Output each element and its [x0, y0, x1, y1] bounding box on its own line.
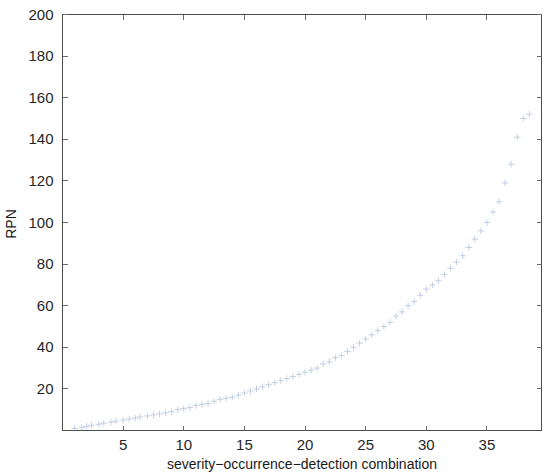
data-point — [229, 394, 235, 400]
data-point — [399, 309, 405, 315]
y-tick-label: 20 — [37, 380, 54, 397]
y-axis-tick-labels: 20406080100120140160180200 — [28, 6, 53, 397]
data-point — [175, 407, 181, 413]
data-point — [429, 282, 435, 288]
data-point — [332, 355, 338, 361]
data-point — [84, 423, 90, 429]
data-point — [241, 390, 247, 396]
x-tick-label: 10 — [175, 436, 192, 453]
data-point — [393, 313, 399, 319]
data-point — [187, 404, 193, 410]
data-point — [411, 298, 417, 304]
y-tick-label: 140 — [28, 130, 53, 147]
x-tick-label: 5 — [119, 436, 127, 453]
data-point — [308, 367, 314, 373]
y-axis-tick-marks — [63, 15, 542, 389]
data-point — [326, 359, 332, 365]
y-tick-label: 200 — [28, 6, 53, 23]
data-point — [247, 388, 253, 394]
data-point — [362, 336, 368, 342]
data-point — [132, 415, 138, 421]
data-point — [302, 369, 308, 375]
data-point — [520, 115, 526, 121]
data-point — [108, 419, 114, 425]
data-point — [435, 278, 441, 284]
data-point — [472, 236, 478, 242]
data-point — [284, 375, 290, 381]
data-point — [113, 418, 119, 424]
y-axis-title: RPN — [3, 209, 19, 239]
data-point — [508, 161, 514, 167]
data-point — [265, 382, 271, 388]
data-point — [320, 361, 326, 367]
y-tick-label: 40 — [37, 338, 54, 355]
x-axis-tick-marks — [123, 15, 487, 431]
data-point — [211, 398, 217, 404]
data-point — [466, 244, 472, 250]
data-point — [162, 410, 168, 416]
data-point-markers — [71, 111, 532, 431]
data-point — [502, 180, 508, 186]
scatter-plot: 5101520253035 20406080100120140160180200… — [0, 0, 547, 475]
y-tick-label: 120 — [28, 172, 53, 189]
data-point — [447, 265, 453, 271]
data-point — [193, 402, 199, 408]
data-point — [290, 373, 296, 379]
data-point — [459, 253, 465, 259]
x-tick-label: 20 — [297, 436, 314, 453]
data-point — [79, 424, 85, 430]
data-point — [350, 344, 356, 350]
data-point — [484, 219, 490, 225]
x-tick-label: 25 — [357, 436, 374, 453]
data-point — [296, 371, 302, 377]
x-axis-title: severity−occurrence−detection combinatio… — [167, 456, 437, 472]
data-point — [168, 409, 174, 415]
data-point — [235, 392, 241, 398]
data-point — [88, 422, 94, 428]
data-point — [417, 292, 423, 298]
data-point — [144, 413, 150, 419]
data-point — [272, 379, 278, 385]
y-tick-label: 80 — [37, 255, 54, 272]
data-point — [478, 228, 484, 234]
data-point — [217, 396, 223, 402]
data-point — [101, 420, 107, 426]
x-tick-label: 30 — [418, 436, 435, 453]
data-point — [156, 411, 162, 417]
y-tick-label: 180 — [28, 47, 53, 64]
x-tick-label: 35 — [479, 436, 496, 453]
data-point — [423, 286, 429, 292]
data-point — [381, 323, 387, 329]
data-point — [405, 303, 411, 309]
data-point — [375, 327, 381, 333]
data-point — [344, 348, 350, 354]
data-point — [223, 395, 229, 401]
data-point — [496, 199, 502, 205]
data-point — [356, 340, 362, 346]
y-tick-label: 60 — [37, 297, 54, 314]
data-point — [490, 209, 496, 215]
data-point — [205, 400, 211, 406]
data-point — [387, 319, 393, 325]
x-axis-tick-labels: 5101520253035 — [119, 436, 495, 453]
data-point — [137, 414, 143, 420]
data-point — [253, 386, 259, 392]
data-point — [96, 421, 102, 427]
data-point — [181, 405, 187, 411]
data-point — [259, 384, 265, 390]
data-point — [453, 259, 459, 265]
data-point — [278, 377, 284, 383]
figure-canvas: 5101520253035 20406080100120140160180200… — [0, 0, 547, 475]
y-tick-label: 160 — [28, 89, 53, 106]
plot-frame — [63, 15, 542, 431]
data-point — [441, 271, 447, 277]
x-tick-label: 15 — [236, 436, 253, 453]
data-point — [369, 332, 375, 338]
data-point — [514, 134, 520, 140]
data-point — [526, 111, 532, 117]
data-point — [314, 365, 320, 371]
data-point — [126, 416, 132, 422]
data-point — [120, 417, 126, 423]
data-point — [199, 401, 205, 407]
data-point — [338, 352, 344, 358]
